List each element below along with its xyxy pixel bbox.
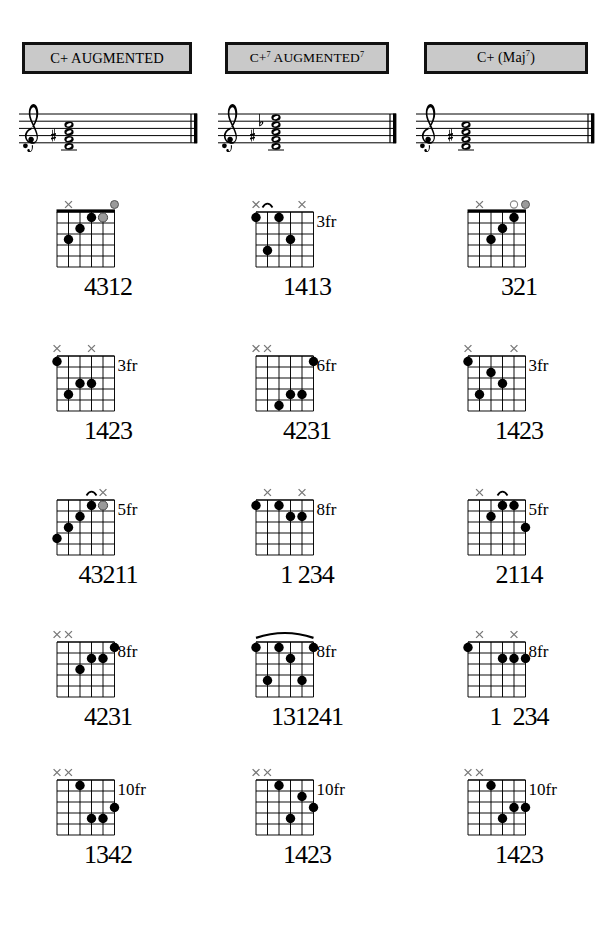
finger-dot	[75, 379, 84, 388]
mute-x-icon	[88, 345, 95, 352]
finger-dot	[87, 814, 96, 823]
fret-position-label: 5fr	[118, 501, 138, 518]
finger-dot	[52, 357, 61, 366]
partial-barre-arc	[263, 204, 273, 208]
finger-dot	[98, 654, 107, 663]
fingering-numbers: 4231	[13, 704, 203, 730]
chord-shape-cell[interactable]: 5fr2114	[410, 464, 600, 604]
chord-shape-cell[interactable]: 3fr1423	[410, 320, 600, 460]
finger-dot	[98, 814, 107, 823]
staff-notation	[216, 96, 402, 168]
chord-shape-cell[interactable]: 8fr1 234	[410, 606, 600, 746]
chord-shape-cell[interactable]: 10fr1423	[410, 744, 600, 884]
fret-position-label: 8fr	[529, 643, 549, 660]
finger-dot	[286, 390, 295, 399]
finger-dot	[75, 512, 84, 521]
chord-diagram	[446, 480, 566, 572]
chord-diagram	[446, 192, 566, 284]
finger-dot	[286, 235, 295, 244]
music-staff	[17, 96, 203, 168]
finger-dot	[274, 781, 283, 790]
mute-x-icon	[100, 489, 107, 496]
fret-position-label: 8fr	[317, 643, 337, 660]
fret-position-label: 10fr	[317, 781, 345, 798]
fingering-numbers: 4231	[212, 418, 402, 444]
chord-shape-cell[interactable]: 6fr4231	[212, 320, 402, 460]
finger-dot	[297, 390, 306, 399]
finger-dot	[87, 379, 96, 388]
finger-dot	[64, 235, 73, 244]
chord-diagram	[35, 622, 155, 714]
chord-shape-cell[interactable]: 8fr131241	[212, 606, 402, 746]
chord-shape-cell[interactable]: 3fr1413	[212, 176, 402, 316]
full-barre-arc	[256, 633, 314, 638]
finger-dot	[87, 213, 96, 222]
chord-column-c7-augmented-7: C+7 AUGMENTED73fr14136fr42318fr1 2348fr1…	[212, 0, 402, 928]
chord-diagram	[35, 760, 155, 852]
chord-diagram	[446, 760, 566, 852]
mute-x-icon	[465, 345, 472, 352]
music-staff	[216, 96, 402, 168]
chord-name-label: C+ AUGMENTED	[50, 51, 164, 66]
finger-dot	[274, 501, 283, 510]
chord-diagram	[234, 622, 354, 714]
optional-finger-dot	[98, 501, 107, 510]
finger-dot	[498, 501, 507, 510]
flat-accidental-icon	[259, 114, 263, 126]
chord-shape-cell[interactable]: 8fr4231	[13, 606, 203, 746]
fingering-numbers: 321	[424, 274, 611, 300]
chord-shape-cell[interactable]: 10fr1342	[13, 744, 203, 884]
finger-dot	[486, 235, 495, 244]
finger-dot	[87, 501, 96, 510]
finger-dot	[521, 803, 530, 812]
chord-name-label: C+ (Maj7)	[477, 51, 535, 65]
chord-shape-cell[interactable]: 321	[410, 176, 600, 316]
mute-x-icon	[476, 631, 483, 638]
finger-dot	[309, 803, 318, 812]
fingering-numbers: 1342	[13, 842, 203, 868]
chord-diagram	[35, 480, 155, 572]
mute-x-icon	[54, 769, 61, 776]
fingering-numbers: 1423	[424, 418, 611, 444]
fingering-numbers: 1423	[13, 418, 203, 444]
mute-x-icon	[54, 631, 61, 638]
chord-shape-cell[interactable]: 3fr1423	[13, 320, 203, 460]
chord-diagram	[234, 480, 354, 572]
chord-name-plate: C+7 AUGMENTED7	[225, 42, 389, 74]
finger-dot	[297, 676, 306, 685]
finger-dot	[498, 814, 507, 823]
mute-x-icon	[511, 345, 518, 352]
finger-dot	[498, 379, 507, 388]
chord-shape-cell[interactable]: 8fr1 234	[212, 464, 402, 604]
chord-name-plate: C+ (Maj7)	[424, 42, 588, 74]
mute-x-icon	[264, 769, 271, 776]
finger-dot	[64, 523, 73, 532]
finger-dot	[486, 368, 495, 377]
staff-notation	[17, 96, 203, 168]
finger-dot	[75, 781, 84, 790]
chord-name-label: C+7 AUGMENTED7	[250, 51, 365, 65]
mute-x-icon	[476, 489, 483, 496]
mute-x-icon	[253, 345, 260, 352]
fingering-numbers: 1 234	[424, 704, 611, 730]
finger-dot	[509, 501, 518, 510]
finger-dot	[251, 213, 260, 222]
finger-dot	[87, 654, 96, 663]
chord-diagram	[234, 760, 354, 852]
finger-dot	[509, 803, 518, 812]
finger-dot	[498, 654, 507, 663]
chord-shape-cell[interactable]: 10fr1423	[212, 744, 402, 884]
chord-shape-cell[interactable]: 5fr43211	[13, 464, 203, 604]
fingering-numbers: 1 234	[212, 562, 402, 588]
finger-dot	[463, 643, 472, 652]
finger-dot	[274, 643, 283, 652]
mute-x-icon	[299, 201, 306, 208]
optional-note-icon	[111, 201, 119, 209]
finger-dot	[486, 512, 495, 521]
chord-diagram	[234, 336, 354, 428]
mute-x-icon	[264, 489, 271, 496]
fret-position-label: 6fr	[317, 357, 337, 374]
mute-x-icon	[65, 631, 72, 638]
finger-dot	[263, 246, 272, 255]
chord-shape-cell[interactable]: 4312	[13, 176, 203, 316]
